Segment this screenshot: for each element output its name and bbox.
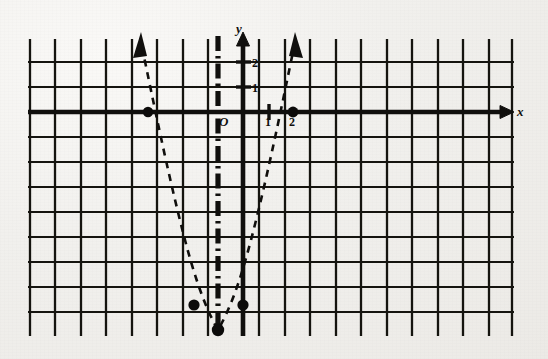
parabola-left-arrowhead (133, 32, 147, 58)
origin-label: O (219, 115, 228, 128)
parabola-right-arrowhead (289, 32, 303, 58)
point-vertex (212, 324, 224, 336)
coordinate-plane-figure (0, 0, 548, 359)
y-tick-label-2: 2 (252, 57, 258, 69)
x-tick-label-1: 1 (265, 116, 271, 128)
x-tick-label-2: 2 (289, 116, 295, 128)
axes (28, 32, 514, 336)
grid-horizontal-lines (28, 62, 514, 312)
y-tick-label-1: 1 (252, 82, 258, 94)
point-root-left (143, 107, 153, 117)
grid-lines (28, 39, 514, 336)
point-right-inner (237, 299, 248, 310)
y-axis-label: y (236, 22, 242, 35)
marked-points (143, 107, 299, 337)
point-left-inner (188, 299, 199, 310)
x-axis-label: x (517, 105, 524, 118)
